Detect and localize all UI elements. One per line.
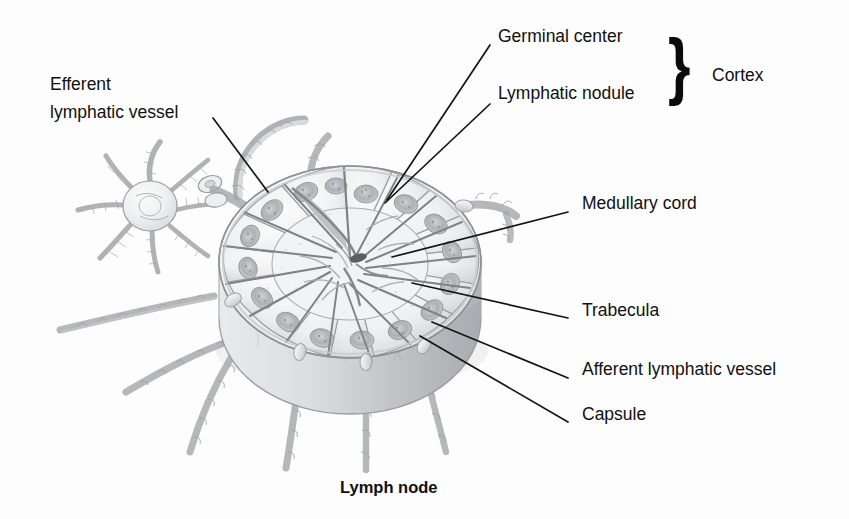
label-trabecula: Trabecula (582, 296, 659, 324)
label-capsule: Capsule (582, 400, 646, 428)
label-medullary-cord: Medullary cord (582, 189, 697, 217)
label-cortex: Cortex (712, 61, 764, 89)
leader-germinal-center (387, 45, 490, 200)
cortex-brace: } (668, 29, 690, 103)
label-lymphatic-nodule: Lymphatic nodule (498, 79, 635, 107)
leader-lymphatic-nodule (385, 104, 490, 203)
figure-caption: Lymph node (340, 473, 437, 501)
accessory-node (78, 142, 220, 272)
label-efferent-line2: lymphatic vessel (50, 102, 178, 122)
label-efferent-line1: Efferent (50, 74, 111, 94)
label-afferent-lymphatic-vessel: Afferent lymphatic vessel (582, 355, 776, 383)
label-germinal-center: Germinal center (498, 22, 623, 50)
label-efferent-lymphatic-vessel: Efferentlymphatic vessel (50, 70, 178, 126)
node-body (219, 166, 481, 358)
illustration: A (60, 120, 516, 470)
